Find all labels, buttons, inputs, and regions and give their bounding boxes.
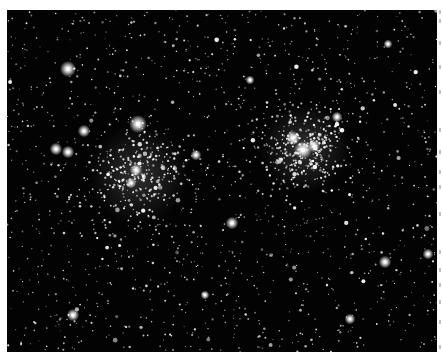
text-fragment xyxy=(439,345,441,349)
text-fragment xyxy=(439,268,441,272)
text-fragment xyxy=(439,19,441,23)
starfield xyxy=(7,10,437,352)
field-stars xyxy=(7,10,437,352)
page-margin-text-fragments xyxy=(438,0,443,355)
text-fragment xyxy=(439,10,441,14)
text-fragment xyxy=(439,65,441,69)
text-fragment xyxy=(439,212,441,216)
star-cluster-photo xyxy=(7,10,437,352)
text-fragment xyxy=(439,90,441,94)
text-fragment xyxy=(439,41,441,45)
text-fragment xyxy=(439,170,441,174)
text-fragment xyxy=(439,320,441,324)
text-fragment xyxy=(439,250,441,254)
text-fragment xyxy=(439,300,441,304)
text-fragment xyxy=(439,150,441,154)
text-fragment xyxy=(439,185,441,189)
text-fragment xyxy=(439,128,441,132)
text-fragment xyxy=(439,283,441,287)
